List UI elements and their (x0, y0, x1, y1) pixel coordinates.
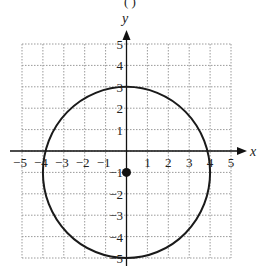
y-tick-label: 4 (117, 58, 124, 73)
x-tick-label: 3 (186, 155, 193, 170)
x-tick-label: −5 (13, 155, 27, 170)
x-tick-labels: −5−4−3−2−112345 (13, 155, 234, 170)
y-tick-label: −1 (109, 165, 123, 180)
x-axis-arrow-icon (237, 147, 247, 155)
y-tick-label: −2 (109, 187, 123, 202)
y-tick-label: 2 (117, 101, 124, 116)
x-tick-label: 5 (228, 155, 235, 170)
x-tick-label: 2 (165, 155, 172, 170)
x-tick-label: 1 (144, 155, 151, 170)
x-axis-label: x (249, 144, 257, 159)
y-axis-label: y (120, 11, 129, 26)
x-tick-label: −4 (34, 155, 48, 170)
y-axis-arrow-icon (123, 30, 131, 40)
y-tick-label: −4 (109, 230, 123, 245)
coordinate-plane: ( ) x y −5−4−3−2−112345 54321−1−2−3−4−5 (0, 0, 260, 269)
center-point (122, 168, 131, 177)
y-tick-label: 1 (117, 123, 124, 138)
header-text: ( ) (124, 0, 136, 9)
x-tick-label: −3 (55, 155, 69, 170)
y-tick-label: 5 (117, 37, 124, 52)
x-tick-label: −2 (76, 155, 90, 170)
y-tick-label: −3 (109, 208, 123, 223)
